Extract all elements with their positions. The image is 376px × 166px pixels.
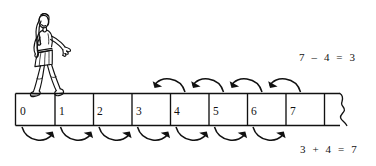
subtraction-equation: 7 – 4 = 3: [299, 51, 357, 63]
number-line-cell-4: 4: [174, 106, 180, 118]
girl-walking-figure: [30, 14, 70, 97]
number-line-cell-2: 2: [97, 106, 103, 118]
wavy-break-icon: [340, 94, 347, 126]
number-line-cell-0: 0: [20, 106, 26, 118]
number-line-cell-7: 7: [290, 106, 296, 118]
number-line-cell-5: 5: [213, 106, 219, 118]
number-line-figure: 0 1 2 3 4 5 6 7 7 – 4 = 3 3 + 4 = 7: [0, 0, 376, 166]
number-line-cell-6: 6: [251, 106, 257, 118]
subtraction-arcs-group: [155, 79, 301, 92]
number-line-cell-1: 1: [59, 106, 65, 118]
addition-equation: 3 + 4 = 7: [300, 143, 359, 155]
figure-artwork: [0, 0, 376, 166]
number-line-cell-3: 3: [136, 106, 142, 118]
